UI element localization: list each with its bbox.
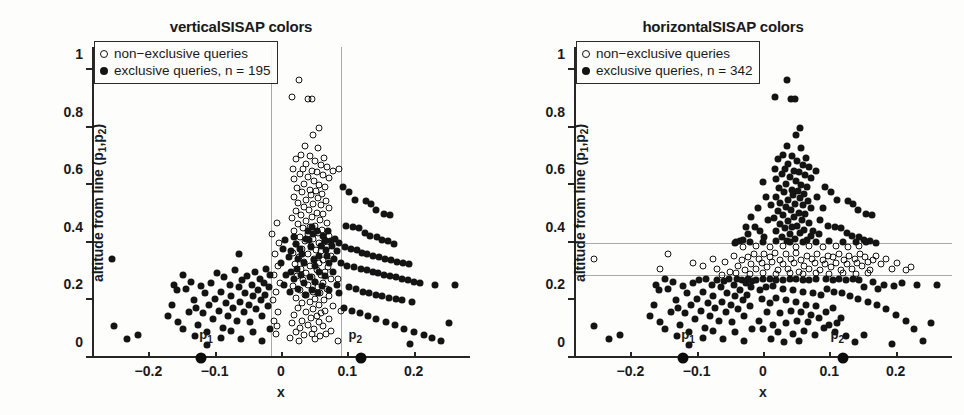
point-exclusive — [913, 281, 920, 288]
point-non-exclusive — [883, 255, 890, 262]
point-exclusive — [791, 213, 798, 220]
y-tick — [86, 68, 92, 70]
point-non-exclusive — [273, 288, 280, 295]
point-non-exclusive — [771, 249, 778, 256]
point-non-exclusive — [330, 303, 337, 310]
point-exclusive — [796, 337, 803, 344]
point-exclusive — [655, 287, 662, 294]
point-exclusive — [202, 290, 209, 297]
point-exclusive — [773, 294, 780, 301]
point-non-exclusive — [315, 124, 322, 131]
point-exclusive — [830, 288, 837, 295]
point-exclusive — [798, 144, 805, 151]
point-exclusive — [307, 244, 314, 251]
point-exclusive — [218, 334, 225, 341]
point-exclusive — [661, 326, 668, 333]
point-exclusive — [401, 326, 408, 333]
point-exclusive — [815, 231, 822, 238]
point-exclusive — [806, 276, 813, 283]
p1-label: p1 — [681, 327, 695, 345]
point-exclusive — [807, 175, 814, 182]
y-tick-label: 0.6 — [64, 161, 83, 177]
y-tick — [568, 356, 574, 358]
point-non-exclusive — [295, 337, 302, 344]
point-exclusive — [334, 248, 341, 255]
point-exclusive — [797, 124, 804, 131]
point-exclusive — [767, 202, 774, 209]
point-exclusive — [783, 77, 790, 84]
point-exclusive — [213, 270, 220, 277]
point-non-exclusive — [806, 243, 813, 250]
point-exclusive — [783, 320, 790, 327]
point-exclusive — [673, 297, 680, 304]
point-exclusive — [754, 205, 761, 212]
point-exclusive — [182, 285, 189, 292]
y-tick-label: 0.8 — [64, 104, 83, 120]
point-exclusive — [911, 326, 918, 333]
point-exclusive — [710, 327, 717, 334]
point-exclusive — [791, 95, 798, 102]
point-exclusive — [780, 189, 787, 196]
y-tick-label: 0.2 — [546, 276, 565, 292]
point-exclusive — [741, 313, 748, 320]
x-tick — [414, 352, 416, 358]
filled-circle-icon — [582, 67, 590, 75]
point-exclusive — [364, 313, 371, 320]
point-exclusive — [390, 241, 397, 248]
point-non-exclusive — [287, 334, 294, 341]
point-exclusive — [860, 331, 867, 338]
point-non-exclusive — [274, 219, 281, 226]
p2-label: p2 — [349, 327, 363, 345]
guide-line-vertical-0 — [271, 47, 272, 358]
point-exclusive — [828, 189, 835, 196]
point-exclusive — [168, 301, 175, 308]
point-exclusive — [749, 326, 756, 333]
point-non-exclusive — [307, 314, 314, 321]
point-exclusive — [302, 235, 309, 242]
point-exclusive — [766, 300, 773, 307]
x-tick-label: −0.1 — [683, 363, 711, 379]
point-exclusive — [315, 290, 322, 297]
point-exclusive — [259, 337, 266, 344]
point-exclusive — [793, 131, 800, 138]
point-non-exclusive — [322, 183, 329, 190]
x-tick — [697, 352, 699, 358]
legend-label: exclusive queries, n = 195 — [114, 62, 270, 79]
point-exclusive — [286, 288, 293, 295]
point-exclusive — [717, 284, 724, 291]
point-exclusive — [767, 336, 774, 343]
point-exclusive — [325, 228, 332, 235]
point-exclusive — [134, 331, 141, 338]
point-exclusive — [760, 238, 767, 245]
point-exclusive — [763, 308, 770, 315]
point-non-exclusive — [325, 175, 332, 182]
point-exclusive — [326, 259, 333, 266]
point-non-exclusive — [275, 308, 282, 315]
point-exclusive — [267, 271, 274, 278]
point-exclusive — [308, 223, 315, 230]
point-exclusive — [763, 284, 770, 291]
point-exclusive — [250, 293, 257, 300]
point-exclusive — [215, 307, 222, 314]
point-exclusive — [742, 223, 749, 230]
point-exclusive — [336, 290, 343, 297]
point-exclusive — [325, 287, 332, 294]
point-exclusive — [783, 297, 790, 304]
point-exclusive — [266, 284, 273, 291]
y-tick-label: 0.4 — [546, 219, 565, 235]
point-exclusive — [333, 281, 340, 288]
point-exclusive — [253, 306, 260, 313]
point-exclusive — [864, 298, 871, 305]
point-exclusive — [382, 319, 389, 326]
point-exclusive — [228, 293, 235, 300]
point-exclusive — [165, 313, 172, 320]
panel-vertical-sisap: verticalSISAP colors 00.20.40.60.81−0.2−… — [0, 0, 482, 415]
x-axis-title: x — [574, 384, 952, 400]
point-exclusive — [409, 298, 416, 305]
point-exclusive — [233, 317, 240, 324]
x-axis-title: x — [92, 384, 470, 400]
point-exclusive — [267, 326, 274, 333]
point-non-exclusive — [811, 259, 818, 266]
point-exclusive — [746, 238, 753, 245]
p2-label: p2 — [831, 327, 845, 345]
